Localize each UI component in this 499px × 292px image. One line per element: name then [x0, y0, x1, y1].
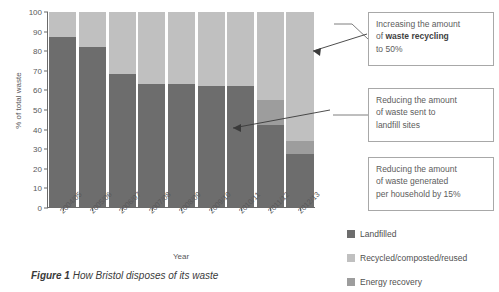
annotation-callout-recycling: Increasing the amount of waste recycling…	[368, 12, 494, 66]
legend-label: Recycled/composted/reused	[360, 253, 467, 263]
bar-segment-recycled	[227, 12, 254, 86]
callout-1-line-1: Increasing the amount	[376, 19, 460, 29]
legend-label: Landfilled	[360, 229, 396, 239]
figure-container: % of total waste 0102030405060708090100 …	[0, 0, 499, 292]
y-axis-title: % of total waste	[14, 36, 23, 166]
legend-item-landfilled[interactable]: Landfilled	[347, 229, 495, 239]
bar-segment-landfilled	[227, 86, 254, 207]
chart-legend: LandfilledRecycled/composted/reusedEnerg…	[347, 229, 495, 287]
bar-segment-landfilled	[79, 47, 106, 207]
bar-segment-recycled	[79, 12, 106, 47]
callout-2-line-3: landfill sites	[376, 120, 420, 130]
bar-2012-13[interactable]	[286, 12, 313, 207]
bar-2004-05[interactable]	[49, 12, 76, 207]
bar-segment-recycled	[198, 12, 225, 86]
x-tick-labels: 2004/052005/062006/072007/082008/092009/…	[47, 209, 315, 251]
annotation-callout-household: Reducing the amount of waste generated p…	[368, 157, 494, 211]
callout-1-line-2-bold: waste recycling	[385, 31, 448, 41]
legend-label: Energy recovery	[360, 277, 422, 287]
bar-segment-recycled	[168, 12, 195, 84]
bar-segment-recycled	[138, 12, 165, 84]
bar-segment-landfilled	[109, 74, 136, 207]
legend-item-energy-recovery[interactable]: Energy recovery	[347, 277, 495, 287]
bars-layer	[48, 12, 315, 207]
bar-2010-11[interactable]	[227, 12, 254, 207]
bar-2011-12[interactable]	[257, 12, 284, 207]
figure-caption: Figure 1 How Bristol disposes of its was…	[31, 270, 218, 281]
chart-plot-area: % of total waste 0102030405060708090100 …	[0, 0, 340, 292]
bar-segment-energy-recovery	[257, 100, 284, 125]
legend-swatch-icon	[347, 230, 355, 238]
bar-2005-06[interactable]	[79, 12, 106, 207]
bar-2009-10[interactable]	[198, 12, 225, 207]
annotation-callout-landfill: Reducing the amount of waste sent to lan…	[368, 88, 494, 142]
figure-caption-label: Figure 1	[31, 270, 70, 281]
bar-segment-landfilled	[198, 86, 225, 207]
bar-segment-landfilled	[138, 84, 165, 207]
callout-2-line-1: Reducing the amount	[376, 95, 457, 105]
bar-2008-09[interactable]	[168, 12, 195, 207]
callout-3-line-3: per household by 15%	[376, 189, 461, 199]
bar-segment-recycled	[257, 12, 284, 100]
figure-caption-text: How Bristol disposes of its waste	[73, 270, 219, 281]
bar-segment-recycled	[49, 12, 76, 37]
callout-1-line-3: to 50%	[376, 44, 402, 54]
bar-segment-energy-recovery	[286, 141, 313, 155]
bar-2006-07[interactable]	[109, 12, 136, 207]
legend-item-recycled[interactable]: Recycled/composted/reused	[347, 253, 495, 263]
callout-2-line-2: of waste sent to	[376, 107, 436, 117]
legend-swatch-icon	[347, 254, 355, 262]
bar-segment-landfilled	[168, 84, 195, 207]
legend-swatch-icon	[347, 278, 355, 286]
callout-3-line-2: of waste generated	[376, 176, 448, 186]
bar-segment-recycled	[286, 12, 313, 141]
bar-segment-landfilled	[49, 37, 76, 207]
bar-segment-recycled	[109, 12, 136, 74]
bar-2007-08[interactable]	[138, 12, 165, 207]
callout-3-line-1: Reducing the amount	[376, 164, 457, 174]
chart-axes: 0102030405060708090100	[47, 12, 315, 208]
x-axis-title: Year	[47, 252, 315, 261]
